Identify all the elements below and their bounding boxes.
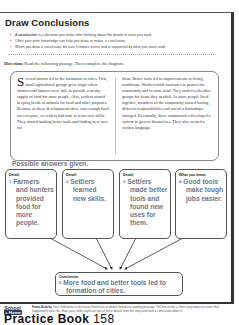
detail-box-1: Detail: 1.Farmersand huntersprovidedfood…	[5, 169, 57, 239]
diagram-arrows	[0, 13, 237, 313]
answer-text: 2.Settlerslearnednew skills.	[66, 178, 106, 203]
answer-text: 4.Good toolsmake toughjobs easier.	[179, 178, 223, 203]
what-you-know-box: What you know: 4.Good toolsmake toughjob…	[175, 169, 227, 239]
detail-box-2: Detail: 2.Settlerslearnednew skills.	[62, 169, 114, 239]
conclusion-box: Conclusion 5.More food and better tools …	[55, 272, 183, 296]
answer-text: 1.Farmersand huntersprovidedfood formore…	[9, 178, 54, 228]
page-footer: Practice Book158	[4, 312, 114, 325]
answer-text: 3.Settlersmade bettertools andfound newu…	[123, 178, 167, 228]
detail-box-3: Detail: 3.Settlersmade bettertools andfo…	[119, 169, 171, 239]
worksheet-page: Draw Conclusions A conclusion is a decis…	[0, 12, 234, 304]
answer-text: 5.More food and better tools led toforma…	[59, 279, 166, 296]
